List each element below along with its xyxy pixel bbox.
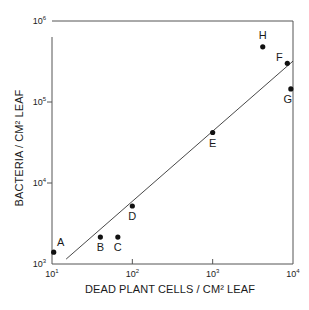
point-label: E (209, 137, 216, 149)
point-label: H (259, 29, 267, 41)
scatter-chart: 101102103104103104105106 ABCDEFGH DEAD P… (0, 0, 309, 310)
point-label: F (276, 51, 283, 63)
data-point-h: H (259, 29, 267, 50)
x-tick-label: 101 (45, 268, 59, 279)
point-marker (51, 250, 56, 255)
point-label: C (114, 241, 122, 253)
point-marker (285, 61, 290, 66)
point-label: B (97, 241, 104, 253)
x-tick-label: 104 (286, 268, 300, 279)
point-marker (98, 234, 103, 239)
y-axis-title: BACTERIA / CM² LEAF (13, 89, 25, 206)
data-point-d: D (128, 203, 136, 222)
plot-frame (52, 21, 293, 264)
point-label: D (128, 210, 136, 222)
data-point-e: E (209, 130, 216, 149)
point-marker (210, 130, 215, 135)
y-tick-label: 104 (33, 177, 47, 188)
point-label: A (57, 236, 65, 248)
x-tick-label: 103 (206, 268, 220, 279)
y-tick-label: 103 (33, 258, 47, 269)
data-point-f: F (276, 51, 290, 66)
x-tick-label: 102 (126, 268, 140, 279)
point-marker (288, 86, 293, 91)
point-marker (130, 203, 135, 208)
data-point-c: C (114, 234, 122, 253)
tick-marks (47, 102, 213, 264)
data-point-b: B (97, 234, 104, 253)
tick-labels: 101102103104103104105106 (33, 15, 301, 279)
point-marker (260, 44, 265, 49)
point-marker (115, 234, 120, 239)
data-points: ABCDEFGH (51, 29, 293, 255)
data-point-g: G (284, 86, 294, 105)
data-point-a: A (51, 236, 65, 255)
x-axis-title: DEAD PLANT CELLS / CM² LEAF (85, 283, 255, 295)
point-label: G (284, 93, 293, 105)
regression-line (66, 61, 293, 259)
y-tick-label: 105 (33, 96, 47, 107)
y-tick-label: 106 (33, 15, 47, 26)
